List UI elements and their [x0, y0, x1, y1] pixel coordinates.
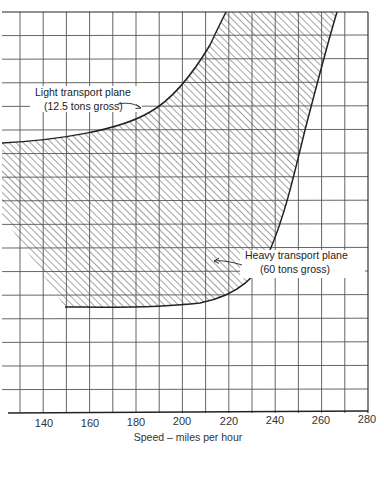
- heavy-label-line1: Heavy transport plane: [245, 249, 348, 261]
- grid-horizontal-line: [2, 129, 368, 130]
- x-axis-line: [8, 411, 368, 413]
- x-tick-160: 160: [81, 417, 99, 429]
- grid-horizontal-line: [2, 318, 368, 319]
- speed-chart: Light transport plane (12.5 tons gross) …: [0, 0, 384, 479]
- x-tick-labels: 140 160 180 200 220 240 260 280: [35, 413, 376, 429]
- grid-horizontal-line: [2, 365, 368, 366]
- x-axis-title: Speed – miles per hour: [134, 431, 243, 443]
- grid-horizontal-line: [2, 342, 368, 343]
- heavy-label-line2: (60 tons gross): [260, 263, 330, 275]
- grid-horizontal-line: [2, 35, 368, 36]
- x-tick-200: 200: [173, 415, 191, 427]
- grid-horizontal-line: [2, 200, 368, 201]
- x-tick-260: 260: [312, 414, 330, 426]
- light-label-line1: Light transport plane: [35, 86, 131, 98]
- grid-horizontal-line: [2, 82, 368, 83]
- grid-horizontal-line: [2, 389, 368, 390]
- grid-horizontal-line: [2, 153, 368, 154]
- grid-horizontal-line: [2, 224, 368, 225]
- x-tick-240: 240: [266, 414, 284, 426]
- grid-horizontal-line: [2, 177, 368, 178]
- x-tick-280: 280: [358, 413, 376, 425]
- grid-horizontal-line: [2, 59, 368, 60]
- grid-horizontal-line: [2, 295, 368, 296]
- x-tick-140: 140: [35, 417, 53, 429]
- light-label-line2: (12.5 tons gross): [44, 100, 123, 112]
- x-tick-220: 220: [220, 415, 238, 427]
- x-tick-180: 180: [127, 416, 145, 428]
- grid-horizontal-line: [2, 247, 368, 248]
